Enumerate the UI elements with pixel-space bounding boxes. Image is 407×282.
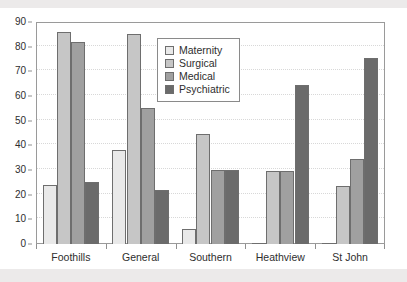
bar <box>336 186 350 244</box>
legend-item: Medical <box>165 70 230 83</box>
y-tick-mark <box>28 194 32 195</box>
y-tick-label: 60 <box>15 91 26 101</box>
x-tick-mark <box>176 244 177 249</box>
bar <box>266 171 280 244</box>
x-tick-mark <box>384 244 385 249</box>
bar <box>127 34 141 244</box>
y-tick-mark <box>28 170 32 171</box>
x-tick-label: Foothills <box>51 252 90 263</box>
y-tick-label: 90 <box>15 17 26 27</box>
legend-label: Medical <box>179 71 215 82</box>
bar <box>280 171 294 244</box>
x-tick-label: Heathview <box>256 252 305 263</box>
legend-swatch-icon <box>165 59 174 68</box>
bar <box>225 170 239 244</box>
x-tick-label: St John <box>332 252 368 263</box>
bar <box>155 190 169 244</box>
bar <box>364 58 378 244</box>
y-tick-label: 40 <box>15 140 26 150</box>
legend-swatch-icon <box>165 85 174 94</box>
legend-item: Surgical <box>165 57 230 70</box>
bar <box>141 108 155 244</box>
y-tick-label: 80 <box>15 42 26 52</box>
bar <box>85 182 99 244</box>
bar <box>182 229 196 244</box>
y-tick-label: 0 <box>20 239 26 249</box>
x-tick-mark <box>36 244 37 249</box>
bar <box>350 159 364 244</box>
legend-swatch-icon <box>165 72 174 81</box>
x-tick-label: Southern <box>189 252 232 263</box>
x-tick-label: General <box>122 252 159 263</box>
x-axis: FoothillsGeneralSouthernHeathviewSt John <box>36 244 385 274</box>
legend-item: Psychiatric <box>165 83 230 96</box>
x-tick-mark <box>106 244 107 249</box>
x-tick-mark <box>245 244 246 249</box>
legend-label: Surgical <box>179 58 217 69</box>
y-tick-label: 50 <box>15 116 26 126</box>
scan-band-top <box>0 0 407 8</box>
legend-swatch-icon <box>165 46 174 55</box>
bar <box>295 85 309 244</box>
y-axis: 0102030405060708090 <box>0 22 32 244</box>
bar-chart-figure: 0102030405060708090 FoothillsGeneralSout… <box>0 0 407 282</box>
bar <box>71 42 85 244</box>
y-tick-mark <box>28 145 32 146</box>
y-tick-label: 30 <box>15 165 26 175</box>
bar <box>196 134 210 244</box>
legend-label: Maternity <box>179 45 222 56</box>
y-tick-label: 20 <box>15 190 26 200</box>
y-tick-mark <box>28 120 32 121</box>
legend: MaternitySurgicalMedicalPsychiatric <box>157 38 240 102</box>
x-tick-mark <box>315 244 316 249</box>
legend-label: Psychiatric <box>179 84 230 95</box>
y-tick-mark <box>28 46 32 47</box>
y-tick-mark <box>28 96 32 97</box>
y-tick-mark <box>28 244 32 245</box>
bar <box>112 150 126 244</box>
legend-item: Maternity <box>165 44 230 57</box>
y-tick-mark <box>28 22 32 23</box>
y-tick-mark <box>28 71 32 72</box>
y-tick-label: 70 <box>15 66 26 76</box>
y-tick-mark <box>28 219 32 220</box>
bar <box>211 170 225 244</box>
y-tick-label: 10 <box>15 214 26 224</box>
bar <box>57 32 71 244</box>
bar <box>43 185 57 244</box>
